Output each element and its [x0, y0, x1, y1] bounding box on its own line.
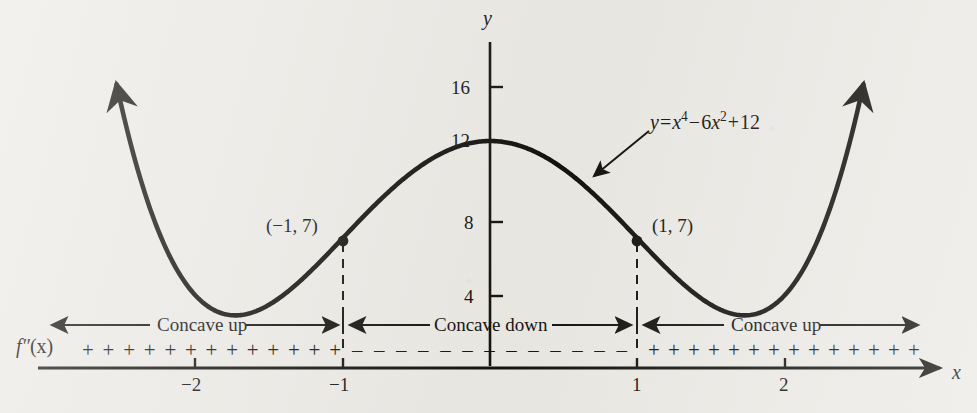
sign-glyph: – [484, 338, 495, 363]
y-tick-label-12: 12 [451, 131, 470, 150]
sign-glyph: + [648, 338, 660, 363]
sign-glyph: + [768, 338, 780, 363]
sign-glyph: + [103, 338, 115, 363]
sign-glyph: + [868, 338, 880, 363]
sign-glyph: – [572, 338, 583, 363]
sign-glyph: – [462, 338, 473, 363]
sign-glyph: + [267, 338, 279, 363]
sign-glyph: – [506, 338, 517, 363]
sign-glyph: + [728, 338, 740, 363]
x-tick-label-minus1: −1 [329, 375, 349, 394]
equation-term2-base: x [711, 111, 720, 133]
concavity-figure: y x 16 12 8 4 −2 −1 1 2 y=x4−6x2+12 (−1,… [0, 0, 977, 413]
sign-glyph: + [888, 338, 900, 363]
concavity-label-middle: Concave down [434, 315, 547, 334]
x-axis-label: x [952, 362, 961, 382]
sign-glyph: – [594, 338, 605, 363]
sign-glyph: + [144, 338, 156, 363]
y-axis-ticks [490, 87, 503, 296]
y-tick-label-4: 4 [464, 287, 474, 306]
second-derivative-label: f″(x) [16, 336, 53, 356]
equation-equals: = [659, 111, 672, 133]
sign-glyph: + [288, 338, 300, 363]
sign-glyph: + [748, 338, 760, 363]
inflection-label-right: (1, 7) [652, 216, 693, 235]
sign-glyph: + [309, 338, 321, 363]
concavity-label-right: Concave up [731, 315, 821, 334]
sign-row-right-positive: ++++++++++++++ [648, 338, 920, 363]
x-tick-label-1: 1 [632, 375, 642, 394]
sign-glyph: + [688, 338, 700, 363]
inflection-label-left: (−1, 7) [266, 216, 318, 235]
sign-glyph: + [808, 338, 820, 363]
equation-label: y=x4−6x2+12 [650, 110, 760, 132]
sign-glyph: – [352, 338, 363, 363]
x-tick-label-2: 2 [779, 375, 789, 394]
sign-glyph: + [908, 338, 920, 363]
equation-term1-base: x [672, 111, 681, 133]
equation-minus: − [688, 111, 701, 133]
inflection-point-dot-left [338, 236, 349, 247]
sign-glyph: + [668, 338, 680, 363]
sign-glyph: + [82, 338, 94, 363]
sign-glyph: + [164, 338, 176, 363]
concavity-label-left: Concave up [157, 315, 247, 334]
sign-glyph: + [206, 338, 218, 363]
sign-glyph: – [550, 338, 561, 363]
second-derivative-argument: (x) [30, 335, 53, 357]
sign-glyph: + [828, 338, 840, 363]
y-tick-label-8: 8 [464, 213, 474, 232]
equation-term2-coefficient: 6 [701, 111, 711, 133]
sign-glyph: – [418, 338, 429, 363]
sign-glyph: + [185, 338, 197, 363]
sign-glyph: + [848, 338, 860, 363]
y-axis-label: y [483, 8, 492, 28]
equation-plus: + [727, 111, 740, 133]
equation-lhs: y [650, 111, 659, 133]
sign-glyph: – [374, 338, 385, 363]
sign-row-middle-negative: ––––––––––––– [352, 338, 627, 363]
inflection-point-dot-right [632, 236, 643, 247]
sign-glyph: – [528, 338, 539, 363]
sign-row-left-positive: +++++++++++++ [82, 338, 341, 363]
equation-term2-exponent: 2 [720, 109, 727, 124]
sign-glyph: + [788, 338, 800, 363]
sign-glyph: + [708, 338, 720, 363]
equation-leader-arrow [594, 131, 649, 176]
sign-glyph: – [396, 338, 407, 363]
sign-glyph: + [226, 338, 238, 363]
second-derivative-primes: ″ [22, 335, 30, 357]
y-tick-label-16: 16 [451, 78, 470, 97]
sign-glyph: + [329, 338, 341, 363]
sign-glyph: + [247, 338, 259, 363]
x-tick-label-minus2: −2 [181, 375, 201, 394]
equation-constant: 12 [740, 111, 760, 133]
equation-term1-exponent: 4 [681, 109, 688, 124]
sign-glyph: – [440, 338, 451, 363]
sign-glyph: + [123, 338, 135, 363]
sign-glyph: – [616, 338, 627, 363]
